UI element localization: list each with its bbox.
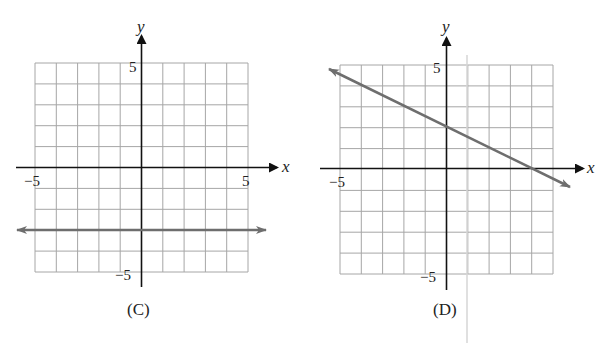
tick-y-min-d: −5 [420, 269, 436, 285]
tick-x-min-c: −5 [24, 173, 40, 189]
y-axis-label-d: y [440, 17, 450, 36]
figure-canvas: x y 5 −5 5 −5 [0, 0, 596, 343]
graph-d: x y 5 −5 −5 [320, 17, 595, 343]
x-axis-label-d: x [586, 158, 595, 177]
tick-y-min-c: −5 [115, 267, 131, 283]
tick-x-min-d: −5 [329, 174, 345, 190]
graph-c: x y 5 −5 5 −5 [16, 17, 290, 287]
panel-caption-c: (C) [127, 300, 150, 320]
tick-x-max-c: 5 [242, 173, 250, 189]
panel-caption-d: (D) [433, 300, 457, 320]
x-axis-label-c: x [281, 157, 290, 176]
y-axis-label-c: y [135, 17, 145, 36]
tick-y-max-c: 5 [129, 59, 137, 75]
tick-y-max-d: 5 [433, 60, 441, 76]
